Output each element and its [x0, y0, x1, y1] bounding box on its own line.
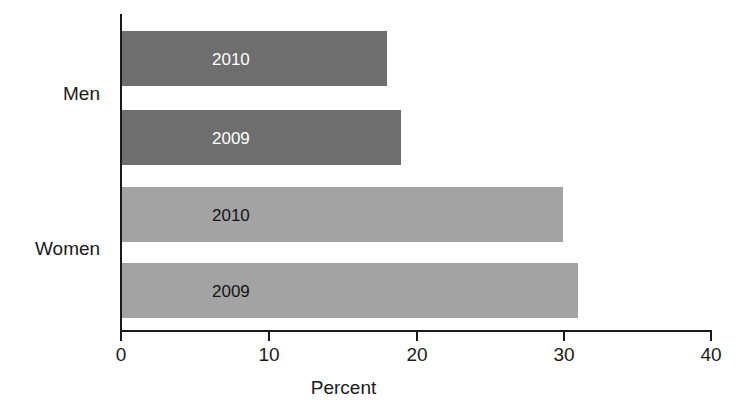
tick-label-10: 10 [258, 345, 279, 364]
bar-label-men-2010: 2010 [212, 50, 250, 67]
group-label-men: Men [35, 84, 100, 103]
tick-mark-0 [120, 332, 122, 341]
tick-mark-40 [710, 332, 712, 341]
tick-label-40: 40 [700, 345, 721, 364]
bar-label-men-2009: 2009 [212, 129, 250, 146]
x-axis-title: Percent [0, 378, 745, 397]
tick-label-30: 30 [553, 345, 574, 364]
tick-label-20: 20 [406, 345, 427, 364]
tick-mark-20 [416, 332, 418, 341]
x-axis-title-text: Percent [311, 377, 376, 398]
tick-mark-30 [563, 332, 565, 341]
bar-label-women-2010: 2010 [212, 206, 250, 223]
bar-label-women-2009: 2009 [212, 282, 250, 299]
bar-chart: Men Women 2010 2009 2010 2009 0 10 20 30… [0, 0, 745, 420]
bar-men-2010[interactable]: 2010 [122, 31, 387, 86]
group-label-women: Women [35, 239, 100, 258]
bar-men-2009[interactable]: 2009 [122, 110, 401, 165]
tick-label-0: 0 [116, 345, 127, 364]
tick-mark-10 [268, 332, 270, 341]
bar-women-2009[interactable]: 2009 [122, 263, 578, 318]
bar-women-2010[interactable]: 2010 [122, 187, 563, 242]
plot-area: 2010 2009 2010 2009 [122, 14, 710, 330]
